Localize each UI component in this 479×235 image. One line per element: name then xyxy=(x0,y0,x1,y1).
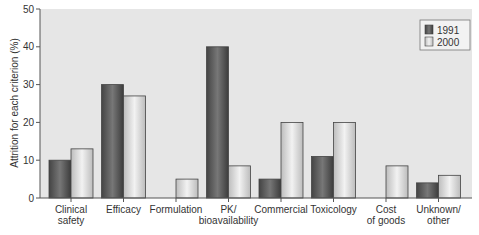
y-tick-label: 50 xyxy=(23,4,35,15)
x-axis: ClinicalsafetyEfficacyFormulationPK/bioa… xyxy=(40,198,472,226)
y-tick-label: 40 xyxy=(23,41,35,52)
y-tick-label: 20 xyxy=(23,117,35,128)
bar-2000 xyxy=(71,149,93,198)
y-axis: 01020304050 xyxy=(23,4,40,204)
y-tick-label: 30 xyxy=(23,79,35,90)
x-tick-label: Commercial xyxy=(254,204,307,215)
legend: 19912000 xyxy=(420,20,470,50)
x-tick-label: of goods xyxy=(367,215,405,226)
x-tick-label: Efficacy xyxy=(106,204,141,215)
x-tick-label: bioavailability xyxy=(199,215,258,226)
bar-2000 xyxy=(439,175,461,198)
x-tick-label: Toxicology xyxy=(310,204,357,215)
bar-1991 xyxy=(417,183,439,198)
bar-2000 xyxy=(176,179,198,198)
y-tick-label: 10 xyxy=(23,155,35,166)
y-axis-label: Attrition for each criterion (%) xyxy=(9,38,20,168)
bar-2000 xyxy=(281,122,303,198)
legend-swatch-1991 xyxy=(425,25,433,34)
bar-1991 xyxy=(207,47,229,198)
x-tick-label: Formulation xyxy=(150,204,203,215)
bar-1991 xyxy=(49,160,71,198)
bar-2000 xyxy=(386,166,408,198)
legend-swatch-2000 xyxy=(425,37,433,46)
bar-2000 xyxy=(229,166,251,198)
chart-container: 01020304050 ClinicalsafetyEfficacyFormul… xyxy=(0,0,479,235)
x-tick-label: PK/ xyxy=(220,204,236,215)
bar-1991 xyxy=(312,156,334,198)
x-tick-label: safety xyxy=(58,215,85,226)
x-tick-label: Cost xyxy=(376,204,397,215)
bar-2000 xyxy=(124,96,146,198)
bar-1991 xyxy=(102,85,124,198)
bar-chart: 01020304050 ClinicalsafetyEfficacyFormul… xyxy=(0,0,479,235)
x-tick-label: Clinical xyxy=(55,204,87,215)
x-tick-label: other xyxy=(427,215,450,226)
legend-label: 1991 xyxy=(437,25,460,36)
bar-2000 xyxy=(334,122,356,198)
legend-label: 2000 xyxy=(437,37,460,48)
y-tick-label: 0 xyxy=(28,193,34,204)
bar-1991 xyxy=(259,179,281,198)
x-tick-label: Unknown/ xyxy=(416,204,461,215)
